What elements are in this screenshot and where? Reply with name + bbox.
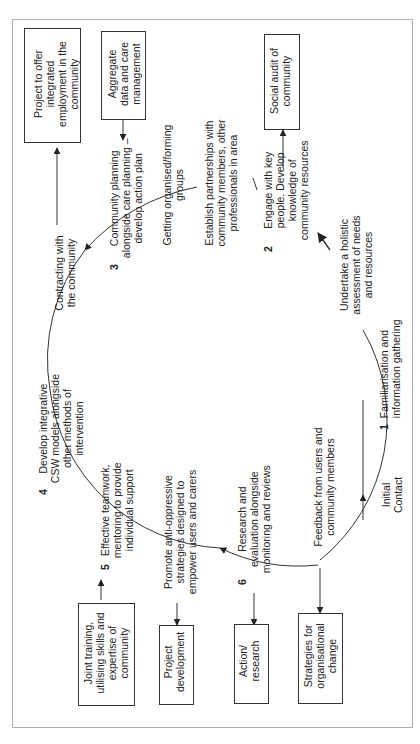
stage-3-number: 3 [108, 264, 120, 270]
label-holistic-assessment: Undertake a holistic assessment of needs… [338, 210, 374, 320]
stage-5: 5Effective teamwork, mentoring to provid… [99, 460, 135, 570]
label-contracting: Contracting with the community [53, 228, 77, 318]
label-anti-oppressive: Promote anti-oppressive strategies desig… [162, 467, 198, 597]
box-project-development-text: Project development [162, 627, 186, 697]
box-action-research-text: Action/ research [237, 626, 261, 696]
stage-4: 4Develop integrative CSW models alongsid… [37, 375, 85, 495]
box-strategies-change-text: Strategies for organisational change [302, 615, 338, 697]
stage-1-text: Familiarisation and information gatherin… [378, 320, 402, 419]
stage-6-text: Research and evaluation alongside monito… [236, 465, 272, 573]
box-social-audit-text: Social audit of community [268, 41, 292, 121]
stage-6: 6Research and evaluation alongside monit… [236, 465, 272, 585]
stage-5-number: 5 [99, 564, 111, 570]
stage-3: 3Community planning alongside care plann… [108, 130, 144, 270]
stage-5-text: Effective teamwork, mentoring to provide… [99, 462, 135, 558]
stage-1-number: 1 [378, 424, 390, 430]
label-feedback: Feedback from users and community member… [312, 422, 336, 552]
stage-6-number: 6 [236, 579, 248, 585]
stage-1: 1Familiarisation and information gatheri… [378, 320, 402, 430]
label-establish-partnerships: Establish partnerships with community me… [203, 113, 239, 253]
stage-4-number: 4 [37, 489, 49, 495]
label-getting-organised: Getting organised/forming groups [161, 120, 185, 250]
stage-2-text: Engage with key people. Develop knowledg… [262, 140, 310, 240]
stage-2-number: 2 [262, 246, 274, 252]
stage-3-text: Community planning alongside care planni… [108, 138, 144, 258]
stage-2: 2Engage with key people. Develop knowled… [262, 142, 310, 252]
box-joint-training-text: Joint training, utilising skills and exp… [82, 608, 130, 698]
stage-4-text: Develop integrative CSW models alongside… [37, 374, 85, 483]
box-aggregate-data-text: Aggregate data and care management [106, 36, 142, 112]
label-initial-contact: Initial Contact [380, 470, 404, 520]
box-project-employment-text: Project to offer integrated employment i… [32, 37, 80, 131]
